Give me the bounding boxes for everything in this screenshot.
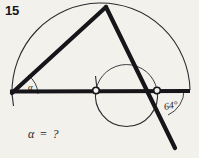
alpha-angle-label: α: [28, 82, 33, 92]
center-point-marker: [93, 87, 100, 94]
problem-number: 15: [5, 3, 19, 18]
triangle-right-side-extended: [106, 7, 175, 148]
right-point-marker: [154, 87, 161, 94]
small-circle-arc-upper: [96, 65, 157, 90]
known-angle-label: 64°: [163, 99, 179, 112]
large-semicircle-arc: [12, 3, 190, 94]
left-vertex-tick: [12, 94, 14, 106]
question-prompt: α = ?: [28, 127, 59, 142]
triangle-left-side: [12, 7, 106, 93]
geometry-problem-figure: 15 α 64° α = ?: [0, 0, 199, 158]
